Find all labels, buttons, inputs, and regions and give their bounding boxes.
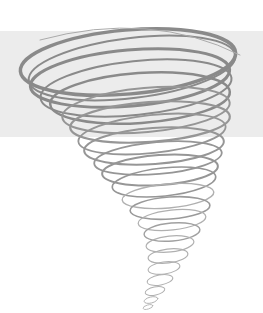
tornado-top-rings <box>18 21 240 130</box>
tornado-lower-rings <box>121 180 215 310</box>
tornado-illustration <box>0 0 263 313</box>
